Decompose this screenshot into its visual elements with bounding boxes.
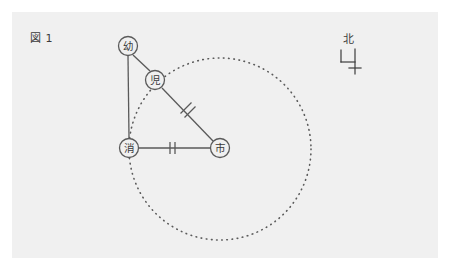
- node-ji[interactable]: 児: [146, 71, 165, 90]
- node-shi-label: 市: [215, 142, 225, 154]
- node-shou-label: 消: [124, 142, 134, 154]
- node-you-label: 幼: [123, 40, 133, 52]
- edge-group: [128, 55, 213, 148]
- diagram-canvas: 幼 児 消 市: [0, 0, 449, 270]
- node-shi[interactable]: 市: [211, 139, 230, 158]
- node-ji-label: 児: [150, 74, 161, 86]
- figure-container: 図 1 北: [0, 0, 449, 270]
- node-shou[interactable]: 消: [120, 139, 139, 158]
- node-you[interactable]: 幼: [119, 37, 138, 56]
- edge-you-ji: [133, 55, 150, 71]
- edge-you-shou: [128, 56, 129, 138]
